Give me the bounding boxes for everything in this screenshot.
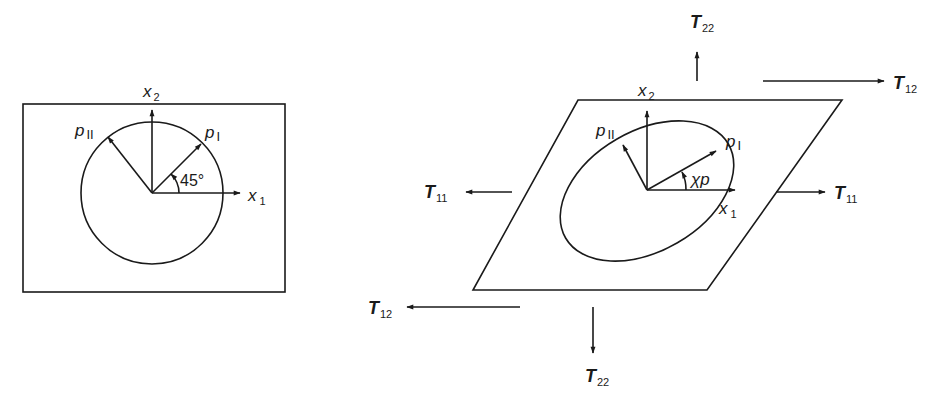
angle-arc: [171, 174, 179, 193]
t11-right-label: T11: [834, 183, 857, 205]
p2-vector-arrow: [108, 137, 152, 193]
stress-diagram: x2 x1 pI pII 45° x2 x1 pI pII χp: [0, 0, 945, 406]
angle-arc: [682, 172, 686, 190]
x2-label: x2: [637, 81, 655, 102]
right-panel: x2 x1 pI pII χp T22 T12 T11 T11 T12 T22: [368, 12, 917, 388]
p1-label: pI: [725, 132, 741, 153]
t12-bottom-label: T12: [368, 298, 392, 320]
x2-label: x2: [142, 82, 160, 103]
p2-label: pII: [74, 121, 94, 142]
p2-vector-arrow: [623, 145, 647, 190]
p1-label: pI: [204, 123, 220, 144]
x1-label: x1: [247, 186, 266, 207]
angle-chi-label: χp: [689, 170, 710, 189]
t22-top-label: T22: [690, 12, 714, 34]
t22-bottom-label: T22: [585, 366, 609, 388]
left-panel: x2 x1 pI pII 45°: [23, 82, 285, 292]
sheared-element: [473, 100, 842, 290]
t12-top-label: T12: [893, 73, 917, 95]
t11-left-label: T11: [424, 182, 447, 204]
angle-45-label: 45°: [180, 172, 204, 189]
x1-label: x1: [718, 199, 737, 220]
p2-label: pII: [595, 121, 615, 142]
